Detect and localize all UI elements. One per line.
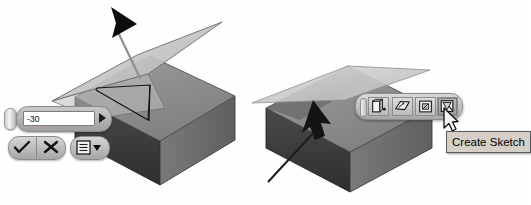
tooltip: Create Sketch [446,131,531,153]
arrow-cursor [444,108,458,131]
